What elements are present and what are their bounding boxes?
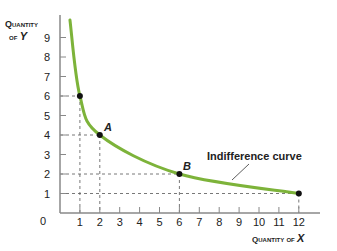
x-tick-label: 7 xyxy=(196,216,202,228)
x-tick-label: 3 xyxy=(117,216,123,228)
y-axis-ticks: 123456789 xyxy=(44,32,66,200)
curve-annotation-label: Indifference curve xyxy=(207,150,302,162)
point-b-label: B xyxy=(183,160,191,172)
y-tick-label: 7 xyxy=(44,71,50,83)
y-tick-label: 1 xyxy=(44,188,50,200)
x-axis-title-prefix: Quantity of xyxy=(252,235,297,244)
x-tick-label: 12 xyxy=(293,216,305,228)
x-tick-label: 10 xyxy=(253,216,265,228)
x-tick-label: 2 xyxy=(97,216,103,228)
x-tick-label: 9 xyxy=(236,216,242,228)
y-tick-label: 6 xyxy=(44,90,50,102)
x-axis-variable: X xyxy=(296,232,305,244)
x-tick-label: 1 xyxy=(77,216,83,228)
y-axis-title-prefix: of xyxy=(9,32,20,42)
y-tick-label: 5 xyxy=(44,110,50,122)
y-tick-label: 4 xyxy=(44,129,50,141)
x-tick-label: 5 xyxy=(156,216,162,228)
axes xyxy=(60,15,320,213)
y-tick-label: 3 xyxy=(44,149,50,161)
data-points xyxy=(77,93,302,197)
x-tick-label: 4 xyxy=(137,216,143,228)
x-axis-ticks: 123456789101112 xyxy=(77,207,305,228)
indifference-curve-chart: 123456789 123456789101112 Indifference c… xyxy=(0,0,337,251)
x-tick-label: 6 xyxy=(176,216,182,228)
point-b xyxy=(176,171,182,177)
y-axis-variable: Y xyxy=(20,30,29,42)
point-a xyxy=(97,132,103,138)
x-tick-label: 8 xyxy=(216,216,222,228)
y-tick-label: 2 xyxy=(44,168,50,180)
y-axis-title-line1: Quantity xyxy=(5,19,38,29)
data-point xyxy=(296,191,302,197)
data-point xyxy=(77,93,83,99)
point-a-label: A xyxy=(103,121,112,133)
y-tick-label: 8 xyxy=(44,51,50,63)
y-axis-title-line2: of Y xyxy=(9,30,29,42)
x-axis-title: Quantity of X xyxy=(252,232,305,244)
x-tick-label: 11 xyxy=(273,216,284,228)
y-tick-label: 9 xyxy=(44,32,50,44)
y-axis-title: Quantity of Y xyxy=(5,19,38,42)
origin-label: 0 xyxy=(40,215,46,227)
annotation-pointer xyxy=(232,164,249,180)
